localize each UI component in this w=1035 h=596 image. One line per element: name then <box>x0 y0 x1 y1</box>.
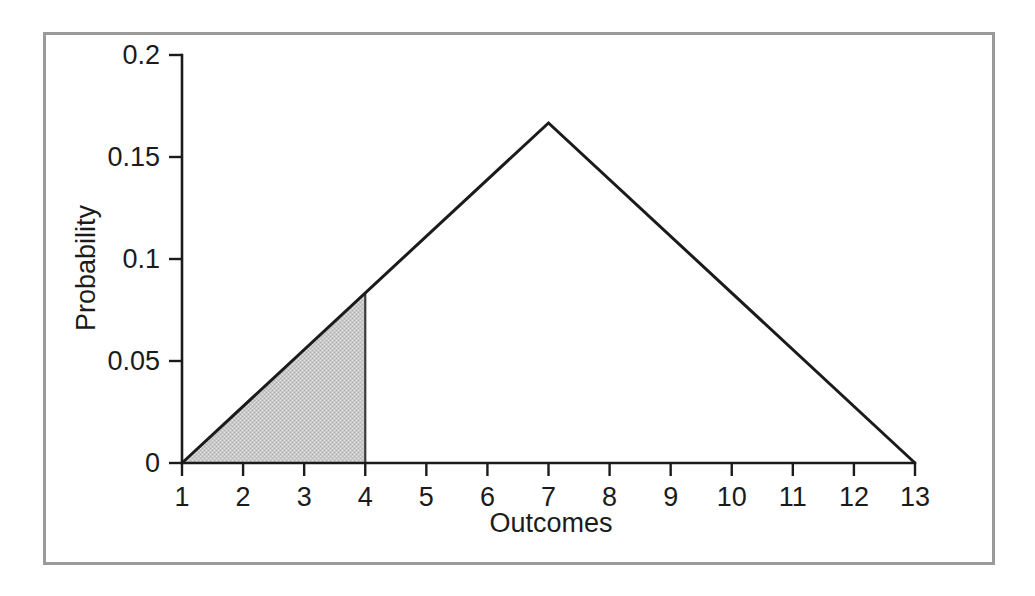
x-tick-label: 11 <box>779 482 807 512</box>
y-tick-label: 0.05 <box>107 346 160 376</box>
y-tick-label: 0.2 <box>122 40 160 70</box>
figure-root: 00.050.10.150.212345678910111213 Outcome… <box>0 0 1035 596</box>
x-tick-label: 5 <box>419 482 434 512</box>
x-tick-label: 4 <box>358 482 373 512</box>
y-axis-title: Probability <box>71 204 101 331</box>
y-tick-label: 0.15 <box>107 142 160 172</box>
x-tick-label: 1 <box>174 482 189 512</box>
y-tick-label: 0 <box>145 448 160 478</box>
x-tick-label: 2 <box>236 482 251 512</box>
x-tick-label: 9 <box>663 482 678 512</box>
x-tick-label: 13 <box>900 482 930 512</box>
x-tick-label: 3 <box>297 482 312 512</box>
y-tick-label: 0.1 <box>122 244 160 274</box>
x-axis-title: Outcomes <box>489 508 612 538</box>
probability-distribution-chart: 00.050.10.150.212345678910111213 Outcome… <box>0 0 1035 596</box>
x-tick-label: 12 <box>839 482 869 512</box>
x-tick-label: 10 <box>717 482 747 512</box>
